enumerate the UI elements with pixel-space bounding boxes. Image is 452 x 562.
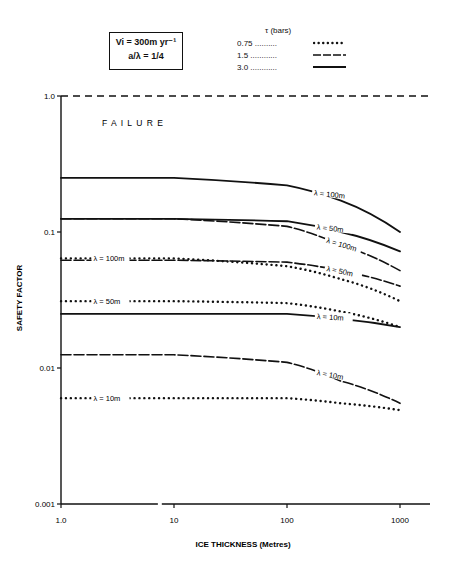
series-label: λ = 10m xyxy=(93,394,120,403)
legend-item-solid: 3.0 ............ xyxy=(237,61,347,73)
x-tick-label: 10 xyxy=(170,516,179,525)
x-tick-label: 1.0 xyxy=(55,516,67,525)
dashed-line-swatch xyxy=(313,52,347,58)
dotted-line-swatch xyxy=(313,40,347,46)
y-tick-label: 0.001 xyxy=(35,500,56,509)
y-tick-label: 0.01 xyxy=(39,364,55,373)
series-line xyxy=(61,258,400,301)
failure-label: F A I L U R E xyxy=(102,118,164,128)
y-tick-label: 0.1 xyxy=(44,228,56,237)
series-label: λ = 10m xyxy=(317,312,344,322)
legend-item-dashed: 1.5 ............ xyxy=(237,49,347,61)
series-label: λ = 100m xyxy=(314,188,346,200)
legend: τ (bars) 0.75 .......... 1.5 ...........… xyxy=(237,26,347,73)
parameter-box: Vi = 300m yr⁻¹ a/λ = 1/4 xyxy=(109,32,183,70)
legend-item-dotted: 0.75 .......... xyxy=(237,37,347,49)
x-tick-label: 1000 xyxy=(391,516,409,525)
series-label: λ = 10m xyxy=(316,368,344,382)
series-label: λ = 100m xyxy=(93,254,124,263)
x-axis-label: ICE THICKNESS (Metres) xyxy=(195,540,290,549)
series-label: λ = 50m xyxy=(316,223,344,235)
x-tick-label: 100 xyxy=(280,516,294,525)
solid-line-swatch xyxy=(313,64,347,70)
axes: 0.0010.010.11.01.0101001000ICE THICKNESS… xyxy=(15,92,430,549)
series-line xyxy=(61,178,400,232)
series-label: λ = 50m xyxy=(93,297,120,306)
series-label: λ = 100m xyxy=(325,236,357,254)
ratio-value: a/λ = 1/4 xyxy=(110,49,182,63)
y-tick-label: 1.0 xyxy=(44,92,56,101)
velocity-value: Vi = 300m yr⁻¹ xyxy=(110,35,182,49)
safety-factor-chart: 0.0010.010.11.01.0101001000ICE THICKNESS… xyxy=(0,0,452,562)
legend-title: τ (bars) xyxy=(265,26,347,35)
y-axis-label: SAFETY FACTOR xyxy=(15,265,24,332)
